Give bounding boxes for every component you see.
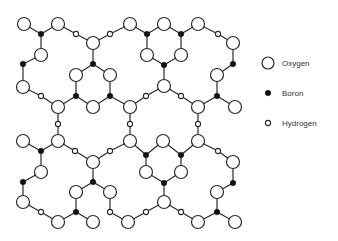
- hydrogen-atom-icon: [107, 148, 112, 153]
- boron-atom-icon: [73, 93, 79, 99]
- boron-atom-icon: [90, 61, 96, 67]
- oxygen-atom-icon: [211, 186, 224, 199]
- boron-legend-icon: [265, 90, 271, 96]
- boron-atom-icon: [161, 180, 167, 186]
- boron-atom-icon: [230, 61, 236, 67]
- atom-layer: [17, 18, 242, 229]
- oxygen-atom-icon: [70, 69, 83, 82]
- hydrogen-atom-icon: [195, 121, 200, 126]
- boron-atom-icon: [178, 152, 184, 158]
- oxygen-atom-icon: [175, 166, 188, 179]
- oxygen-atom-icon: [87, 156, 100, 169]
- hydrogen-atom-icon: [178, 209, 183, 214]
- oxygen-atom-icon: [124, 18, 137, 31]
- oxygen-atom-icon: [17, 135, 30, 148]
- oxygen-atom-icon: [124, 135, 137, 148]
- oxygen-atom-icon: [70, 186, 83, 199]
- boron-atom-icon: [143, 152, 149, 158]
- boron-atom-icon: [161, 62, 167, 68]
- boron-atom-icon: [144, 31, 150, 37]
- legend: Oxygen Boron Hydrogen: [262, 57, 317, 128]
- oxygen-atom-icon: [17, 81, 30, 94]
- legend-item-oxygen: Oxygen: [262, 57, 310, 69]
- boron-atom-icon: [38, 31, 44, 37]
- oxygen-atom-icon: [158, 80, 171, 93]
- oxygen-atom-icon: [124, 101, 137, 114]
- hydrogen-atom-icon: [215, 31, 220, 36]
- oxygen-atom-icon: [104, 69, 117, 82]
- oxygen-atom-icon: [122, 216, 135, 229]
- oxygen-atom-icon: [18, 18, 31, 31]
- oxygen-atom-icon: [229, 216, 242, 229]
- oxygen-atom-icon: [35, 166, 48, 179]
- oxygen-atom-icon: [227, 156, 240, 169]
- oxygen-atom-icon: [87, 37, 100, 50]
- legend-item-hydrogen: Hydrogen: [265, 119, 316, 128]
- oxygen-legend-icon: [262, 57, 274, 69]
- oxygen-atom-icon: [158, 196, 171, 209]
- oxygen-atom-icon: [52, 101, 65, 114]
- hydrogen-atom-icon: [143, 93, 148, 98]
- oxygen-atom-icon: [192, 101, 205, 114]
- oxygen-atom-icon: [211, 69, 224, 82]
- boron-atom-icon: [214, 209, 220, 215]
- boron-atom-icon: [90, 179, 96, 185]
- boron-atom-icon: [20, 61, 26, 67]
- boron-atom-icon: [178, 31, 184, 37]
- boron-atom-icon: [73, 209, 79, 215]
- oxygen-atom-icon: [87, 216, 100, 229]
- hydrogen-atom-icon: [215, 148, 220, 153]
- legend-label-hydrogen: Hydrogen: [282, 119, 317, 128]
- oxygen-atom-icon: [104, 186, 117, 199]
- boron-atom-icon: [214, 93, 220, 99]
- legend-item-boron: Boron: [265, 89, 303, 98]
- hydrogen-legend-icon: [265, 120, 270, 125]
- boron-atom-icon: [230, 180, 236, 186]
- oxygen-atom-icon: [17, 196, 30, 209]
- oxygen-atom-icon: [35, 49, 48, 62]
- hydrogen-atom-icon: [127, 121, 132, 126]
- oxygen-atom-icon: [52, 18, 65, 31]
- hydrogen-atom-icon: [72, 148, 77, 153]
- oxygen-atom-icon: [140, 166, 153, 179]
- oxygen-atom-icon: [227, 37, 240, 50]
- oxygen-atom-icon: [192, 135, 205, 148]
- oxygen-atom-icon: [192, 216, 205, 229]
- oxygen-atom-icon: [158, 18, 171, 31]
- hydrogen-atom-icon: [107, 31, 112, 36]
- oxygen-atom-icon: [157, 135, 170, 148]
- boron-atom-icon: [38, 148, 44, 154]
- oxygen-atom-icon: [52, 216, 65, 229]
- hydrogen-atom-icon: [143, 209, 148, 214]
- oxygen-atom-icon: [229, 101, 242, 114]
- hydrogen-atom-icon: [38, 209, 43, 214]
- oxygen-atom-icon: [175, 49, 188, 62]
- hydrogen-atom-icon: [38, 93, 43, 98]
- boron-atom-icon: [20, 179, 26, 185]
- oxygen-atom-icon: [141, 49, 154, 62]
- hydrogen-atom-icon: [107, 209, 112, 214]
- hydrogen-atom-icon: [73, 31, 78, 36]
- oxygen-atom-icon: [87, 101, 100, 114]
- oxygen-atom-icon: [52, 135, 65, 148]
- hydrogen-atom-icon: [178, 93, 183, 98]
- hydrogen-atom-icon: [55, 121, 60, 126]
- boric-acid-structure-diagram: Oxygen Boron Hydrogen: [0, 0, 338, 241]
- boron-atom-icon: [107, 93, 113, 99]
- legend-label-boron: Boron: [282, 89, 303, 98]
- oxygen-atom-icon: [192, 18, 205, 31]
- legend-label-oxygen: Oxygen: [282, 59, 310, 68]
